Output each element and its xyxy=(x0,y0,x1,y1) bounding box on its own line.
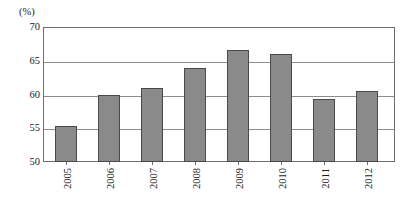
bar-2012 xyxy=(356,91,378,162)
x-tick-label-2005: 2005 xyxy=(62,168,73,189)
y-tick-label-70: 70 xyxy=(14,22,40,32)
bar-2010 xyxy=(270,54,292,162)
y-tick-label-50: 50 xyxy=(14,157,40,167)
x-tick-label-2006: 2006 xyxy=(105,168,116,189)
x-tick-label-2012: 2012 xyxy=(363,168,374,189)
bar-2011 xyxy=(313,99,335,162)
bar-2006 xyxy=(98,95,120,162)
x-tick-2008 xyxy=(195,162,196,165)
y-tick-label-60: 60 xyxy=(14,90,40,100)
bars-layer xyxy=(43,27,395,162)
x-tick-2011 xyxy=(324,162,325,165)
x-tick-2012 xyxy=(367,162,368,165)
x-tick-label-2009: 2009 xyxy=(234,168,245,189)
bar-2007 xyxy=(141,88,163,162)
bar-2009 xyxy=(227,50,249,162)
bar-2005 xyxy=(55,126,77,162)
y-tick-label-65: 65 xyxy=(14,56,40,66)
bar-2008 xyxy=(184,68,206,162)
x-tick-2009 xyxy=(238,162,239,165)
x-tick-label-2011: 2011 xyxy=(320,168,331,189)
x-tick-2005 xyxy=(66,162,67,165)
x-tick-label-2007: 2007 xyxy=(148,168,159,189)
x-tick-2006 xyxy=(109,162,110,165)
x-tick-label-2008: 2008 xyxy=(191,168,202,189)
x-tick-2007 xyxy=(152,162,153,165)
x-tick-2010 xyxy=(281,162,282,165)
y-tick-label-55: 55 xyxy=(14,123,40,133)
y-axis-unit-label: (%) xyxy=(19,6,35,17)
bar-chart-figure: (%) 70 65 60 55 50 2005 2006 2007 2008 2… xyxy=(0,0,409,212)
x-tick-label-2010: 2010 xyxy=(277,168,288,189)
